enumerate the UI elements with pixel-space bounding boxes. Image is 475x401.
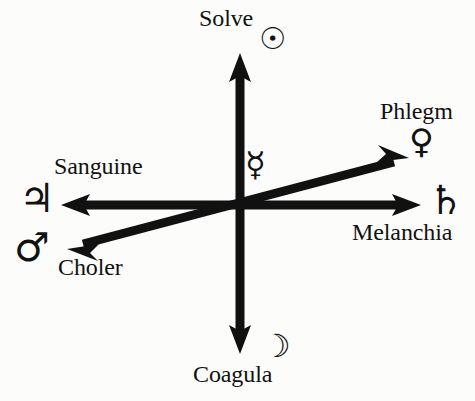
sun-symbol-icon: ☉ [259, 24, 286, 54]
pole-label-choler: Choler [58, 255, 123, 279]
mars-symbol-icon: ♂ [14, 227, 50, 267]
pole-label-coagula: Coagula [193, 362, 272, 386]
pole-label-sanguine: Sanguine [54, 154, 143, 178]
pole-label-phlegm: Phlegm [380, 99, 453, 123]
jupiter-symbol-icon: ♃ [19, 178, 55, 218]
saturn-symbol-icon: ♄ [428, 180, 464, 220]
axes-graphic [0, 0, 475, 401]
moon-symbol-icon: ☽ [262, 330, 291, 362]
pole-label-solve: Solve [199, 6, 253, 30]
pole-label-melanchia: Melanchia [352, 220, 452, 244]
venus-symbol-icon: ♀ [409, 124, 434, 158]
mercury-symbol-icon: ☿ [245, 147, 266, 181]
arrowhead-northeast [377, 145, 409, 162]
alchemical-axes-diagram: Solve ☉ Phlegm ♀ Sanguine ♃ ☿ ♄ Melanchi… [0, 0, 475, 401]
